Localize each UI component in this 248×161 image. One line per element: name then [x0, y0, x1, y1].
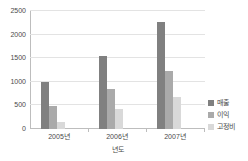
legend-item[interactable]: 이익: [208, 109, 248, 120]
bar-group: [30, 11, 88, 129]
bar[interactable]: [115, 109, 123, 129]
bar[interactable]: [99, 56, 107, 129]
y-axis-tick-label: 0: [22, 125, 26, 132]
x-axis-tick-label: 2007년: [146, 133, 204, 141]
bar-group: [146, 11, 204, 129]
bar[interactable]: [49, 106, 57, 129]
bar-group: [88, 11, 146, 129]
bar[interactable]: [41, 82, 49, 129]
y-axis-tick-label: 500: [14, 101, 26, 108]
y-axis-tick-label: 2500: [10, 7, 26, 14]
category-tick: [88, 129, 89, 132]
bar[interactable]: [157, 22, 165, 129]
chart-legend: 매출이익고정비: [208, 97, 248, 133]
y-axis-tick-label: 2000: [10, 31, 26, 38]
x-axis-title: 년도: [30, 146, 205, 154]
legend-item[interactable]: 고정비: [208, 121, 248, 132]
x-axis-tick-label: 2005년: [30, 133, 88, 141]
legend-swatch-icon: [208, 124, 214, 130]
legend-swatch-icon: [208, 100, 214, 106]
legend-item[interactable]: 매출: [208, 97, 248, 108]
legend-label: 이익: [217, 111, 229, 119]
bar[interactable]: [107, 89, 115, 129]
legend-label: 고정비: [217, 123, 235, 131]
plot-area: [30, 11, 205, 129]
legend-label: 매출: [217, 99, 229, 107]
x-axis-tick-label: 2006년: [88, 133, 146, 141]
category-tick: [204, 129, 205, 132]
category-tick: [146, 129, 147, 132]
bar[interactable]: [57, 122, 65, 129]
bar-chart: 05001000150020002500 2005년2006년2007년 년도 …: [0, 0, 248, 161]
legend-swatch-icon: [208, 112, 214, 118]
y-axis-tick-label: 1000: [10, 78, 26, 85]
bar[interactable]: [165, 71, 173, 129]
bar[interactable]: [173, 97, 181, 129]
y-axis-tick-label: 1500: [10, 54, 26, 61]
